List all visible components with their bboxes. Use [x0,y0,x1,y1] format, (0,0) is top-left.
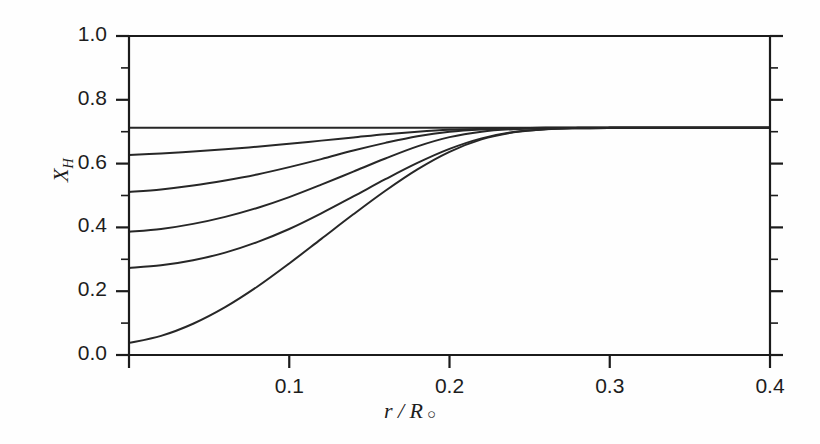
x-tick-label-0.4: 0.4 [720,374,820,398]
solar-symbol-icon: ○ [427,406,436,422]
chart-figure: 0.00.20.40.60.81.0 0.10.20.30.4 XH r / R… [0,0,820,444]
y-tick-label-0.2: 0.2 [19,277,107,301]
curve-stage-6-most-evolved [129,128,770,343]
y-tick-label-0.4: 0.4 [19,213,107,237]
y-tick-label-1.0: 1.0 [19,22,107,46]
x-axis-label-main: r / R [384,398,423,423]
axes-group [116,36,783,368]
x-tick-label-0.1: 0.1 [239,374,339,398]
x-axis-label: r / R○ [0,398,820,424]
y-axis-label-sub: H [61,158,76,168]
x-tick-label-0.2: 0.2 [400,374,500,398]
curves-group [129,128,770,343]
x-tick-label-0.3: 0.3 [560,374,660,398]
y-axis-label-main: X [48,169,73,182]
y-axis-label: XH [48,158,77,182]
y-tick-label-0.0: 0.0 [19,341,107,365]
y-tick-label-0.8: 0.8 [19,86,107,110]
